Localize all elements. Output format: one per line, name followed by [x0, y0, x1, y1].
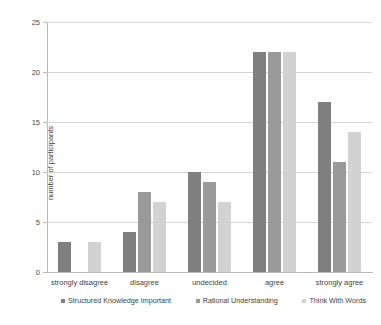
bar — [123, 232, 136, 272]
legend-swatch-icon — [302, 299, 306, 303]
bar — [188, 172, 201, 272]
bar — [218, 202, 231, 272]
bar-group: undecided — [177, 22, 242, 272]
y-tick-label: 20 — [32, 68, 40, 77]
y-tick-mark — [43, 272, 47, 273]
x-tick-label: disagree — [130, 278, 159, 287]
y-tick-label: 10 — [32, 168, 40, 177]
bar — [138, 192, 151, 272]
bar-group: strongly disagree — [47, 22, 112, 272]
bar-group: strongly agree — [307, 22, 372, 272]
bar — [88, 242, 101, 272]
bar-group: disagree — [112, 22, 177, 272]
legend-item: Think With Words — [302, 296, 366, 305]
bar — [348, 132, 361, 272]
legend-label: Think With Words — [309, 296, 366, 305]
plot-area: 0510152025 strongly disagreedisagreeunde… — [47, 22, 372, 272]
y-tick-label: 25 — [32, 18, 40, 27]
x-tick-label: strongly disagree — [51, 278, 108, 287]
x-tick-label: agree — [265, 278, 284, 287]
legend-label: Rational Understanding — [203, 296, 278, 305]
x-tick-label: strongly agree — [316, 278, 364, 287]
x-tick-label: undecided — [192, 278, 227, 287]
bar — [58, 242, 71, 272]
bar — [268, 52, 281, 272]
bar-group: agree — [242, 22, 307, 272]
bar — [203, 182, 216, 272]
bar-chart: number of participants 0510152025 strong… — [0, 0, 381, 325]
y-tick-label: 5 — [36, 218, 40, 227]
legend-label: Structured Knowledge Important — [68, 296, 171, 305]
y-tick-label: 15 — [32, 118, 40, 127]
bar — [153, 202, 166, 272]
bar — [318, 102, 331, 272]
bar — [283, 52, 296, 272]
gridline — [47, 272, 372, 273]
bar — [253, 52, 266, 272]
legend-item: Rational Understanding — [196, 296, 278, 305]
bar — [333, 162, 346, 272]
legend-swatch-icon — [61, 299, 65, 303]
bar-groups: strongly disagreedisagreeundecidedagrees… — [47, 22, 372, 272]
legend-item: Structured Knowledge Important — [61, 296, 171, 305]
y-tick-label: 0 — [36, 268, 40, 277]
legend-swatch-icon — [196, 299, 200, 303]
chart-legend: Structured Knowledge ImportantRational U… — [47, 296, 372, 305]
